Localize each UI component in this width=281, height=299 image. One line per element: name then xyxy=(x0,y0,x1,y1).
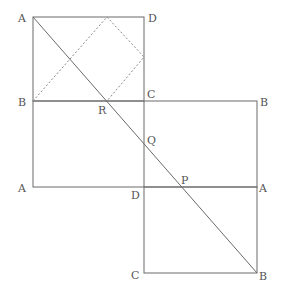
top-square xyxy=(33,17,144,101)
label-D-mid: D xyxy=(131,189,140,202)
bottom-square xyxy=(144,187,257,273)
label-B-bottom: B xyxy=(259,270,267,283)
label-P: P xyxy=(181,174,189,187)
label-B-right: B xyxy=(260,96,268,109)
geometry-diagram: A D B R C B Q P A D A C B xyxy=(0,0,281,299)
label-D-top: D xyxy=(148,12,157,25)
label-A-right: A xyxy=(258,182,268,195)
label-A-left: A xyxy=(17,182,27,195)
label-Q: Q xyxy=(147,134,156,147)
diagonal-line xyxy=(33,17,257,273)
label-B-left: B xyxy=(18,96,26,109)
label-C-mid: C xyxy=(147,88,155,101)
middle-rectangle xyxy=(33,101,257,187)
label-C-bottom: C xyxy=(131,269,139,282)
label-A-top: A xyxy=(17,12,27,25)
dashed-square xyxy=(33,17,144,101)
label-R: R xyxy=(98,104,107,117)
